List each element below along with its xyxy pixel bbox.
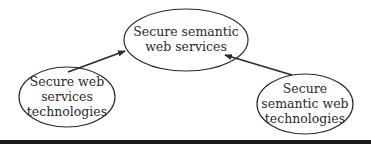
node-label-secure-semantic-web-technologies: Secure semantic web technologies bbox=[260, 81, 350, 126]
node-label-line: Secure web bbox=[22, 74, 112, 89]
node-label-line: Secure bbox=[260, 81, 350, 96]
node-label-line: semantic web bbox=[260, 96, 350, 111]
arrow-right-to-top bbox=[225, 55, 292, 75]
arrow-left-to-top bbox=[68, 51, 125, 72]
node-label-line: technologies bbox=[260, 111, 350, 126]
node-label-line: web services bbox=[126, 39, 246, 54]
diagram-canvas: Secure semantic web services Secure web … bbox=[0, 0, 371, 144]
node-label-line: services bbox=[22, 89, 112, 104]
node-label-secure-semantic-web-services: Secure semantic web services bbox=[126, 24, 246, 54]
node-label-secure-web-services-technologies: Secure web services technologies bbox=[22, 74, 112, 119]
node-label-line: technologies bbox=[22, 104, 112, 119]
node-label-line: Secure semantic bbox=[126, 24, 246, 39]
bottom-rule bbox=[0, 140, 371, 144]
